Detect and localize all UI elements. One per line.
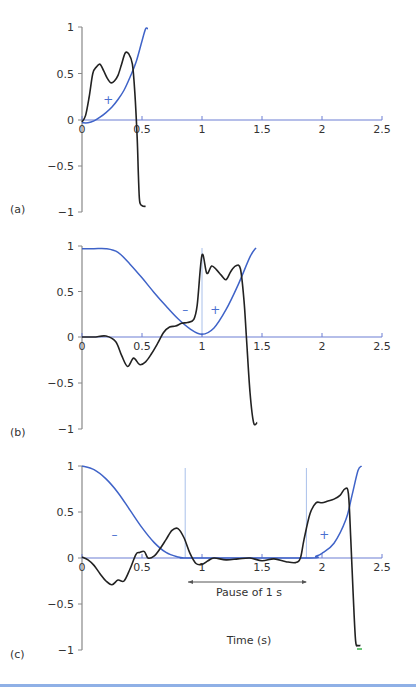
x-tick-label: 1 [199,123,206,136]
y-tick-label: 1 [67,460,74,473]
minus-sign: – [182,303,188,317]
velocity-curve [82,52,146,206]
position-curve [82,466,362,558]
plus-sign: + [103,93,113,107]
y-tick-label: −0.5 [47,598,74,611]
x-tick-label: 1.5 [253,340,271,353]
plus-sign: + [319,528,329,542]
axes: 10.50−0.5−100.511.522.5 [47,21,390,219]
x-tick-label: 0 [79,561,86,574]
y-tick-label: 0 [67,552,74,565]
y-tick-label: −0.5 [47,377,74,390]
x-tick-label: 0 [79,340,86,353]
panel-c: 10.50−0.5−100.511.522.5 –+ Pause of 1 s … [10,460,391,661]
y-tick-label: 0.5 [57,68,75,81]
x-tick-label: 0 [79,123,86,136]
x-tick-label: 2.5 [373,561,391,574]
figure: 10.50−0.5−100.511.522.5 + (a) 10.50−0.5−… [0,0,416,687]
x-tick-label: 0.5 [133,340,151,353]
y-tick-label: −1 [58,206,74,219]
annotations: –+ [182,303,220,317]
axes: 10.50−0.5−100.511.522.5 [47,240,390,436]
x-axis-title: Time (s) [226,634,272,647]
x-tick-label: 0.5 [133,561,151,574]
minus-sign: – [111,528,117,542]
x-tick-label: 2.5 [373,123,391,136]
curves [82,466,362,646]
x-tick-label: 2.5 [373,340,391,353]
velocity-curve [82,254,257,425]
y-tick-label: −1 [58,644,74,657]
y-tick-label: −1 [58,423,74,436]
y-tick-label: 0.5 [57,286,75,299]
annotations: + [103,93,113,107]
panel-label: (b) [10,426,26,439]
panel-label: (c) [10,648,25,661]
x-tick-label: 2 [319,340,326,353]
curves [82,248,257,425]
x-tick-label: 2 [319,123,326,136]
panel-b: 10.50−0.5−100.511.522.5 –+ (b) [10,240,391,439]
x-tick-label: 1.5 [253,123,271,136]
position-curve [82,248,256,334]
x-tick-label: 1.5 [253,561,271,574]
y-tick-label: 0 [67,331,74,344]
y-tick-label: 1 [67,240,74,253]
curves [82,28,148,207]
plus-sign: + [210,303,220,317]
pause-label: Pause of 1 s [216,586,282,599]
y-tick-label: 0.5 [57,506,75,519]
x-tick-label: 1 [199,340,206,353]
pause-arrow: Pause of 1 s [188,580,307,599]
y-tick-label: 0 [67,114,74,127]
y-tick-label: −0.5 [47,160,74,173]
x-tick-label: 2 [319,561,326,574]
y-tick-label: 1 [67,21,74,34]
panel-a: 10.50−0.5−100.511.522.5 + (a) [10,21,391,219]
panel-label: (a) [10,203,25,216]
vertical-markers [185,468,306,558]
